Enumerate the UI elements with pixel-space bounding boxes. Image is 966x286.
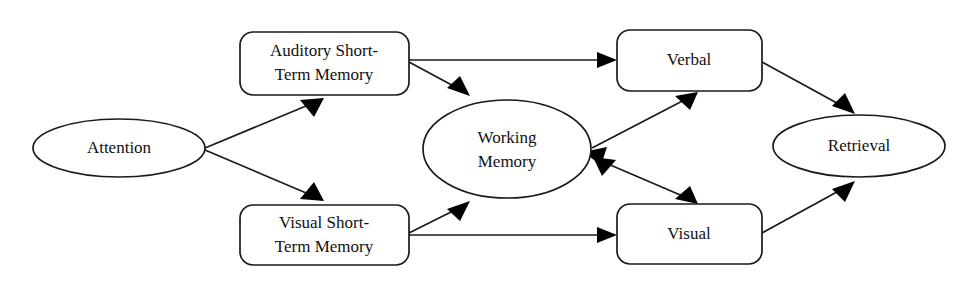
- arrow-head-icon: [447, 76, 470, 96]
- node-label-working-memory-line2: Memory: [478, 152, 537, 171]
- edge-line: [762, 187, 846, 233]
- node-label-attention: Attention: [87, 138, 152, 157]
- node-attention[interactable]: Attention: [33, 119, 205, 177]
- edge-working-memory-visual: [593, 157, 698, 204]
- edge-visual-stm-to-working-memory: [409, 201, 470, 233]
- edge-line: [205, 101, 318, 148]
- edge-attention-to-auditory-stm: [205, 98, 324, 148]
- node-shape-ellipse: [423, 100, 591, 198]
- node-visual[interactable]: Visual: [617, 204, 762, 264]
- edge-line: [601, 161, 692, 200]
- edge-working-memory-verbal: [583, 92, 698, 165]
- edge-line: [205, 150, 318, 198]
- edge-attention-to-visual-stm: [205, 150, 324, 201]
- node-label-visual-stm-line1: Visual Short-: [279, 213, 369, 232]
- diagram-canvas: Attention Auditory Short- Term Memory Vi…: [0, 0, 966, 286]
- node-label-auditory-line2: Term Memory: [275, 65, 374, 84]
- arrow-head-icon: [832, 93, 855, 114]
- node-verbal[interactable]: Verbal: [617, 30, 762, 91]
- memory-model-diagram: Attention Auditory Short- Term Memory Vi…: [0, 0, 966, 286]
- arrow-head-icon: [447, 201, 470, 221]
- arrow-head-icon: [675, 92, 698, 110]
- node-visual-short-term-memory[interactable]: Visual Short- Term Memory: [240, 205, 409, 265]
- arrow-head-icon: [597, 52, 617, 68]
- edge-visual-to-retrieval: [762, 181, 855, 233]
- node-retrieval[interactable]: Retrieval: [773, 115, 945, 177]
- node-label-visual-stm-line2: Term Memory: [275, 237, 374, 256]
- edge-line: [592, 96, 692, 148]
- edge-line: [762, 62, 846, 108]
- edge-auditory-stm-to-verbal: [409, 52, 617, 68]
- node-auditory-short-term-memory[interactable]: Auditory Short- Term Memory: [240, 32, 409, 95]
- edge-auditory-stm-to-working-memory: [409, 62, 470, 96]
- edge-visual-stm-to-visual: [409, 227, 617, 243]
- arrow-head-icon: [597, 227, 617, 243]
- node-label-visual: Visual: [667, 224, 711, 243]
- edge-verbal-to-retrieval: [762, 62, 855, 114]
- node-label-verbal: Verbal: [667, 50, 712, 69]
- arrow-head-icon: [832, 181, 855, 202]
- node-label-auditory-line1: Auditory Short-: [270, 41, 378, 60]
- node-label-working-memory-line1: Working: [477, 128, 537, 147]
- node-label-retrieval: Retrieval: [828, 136, 891, 155]
- node-working-memory[interactable]: Working Memory: [423, 100, 591, 198]
